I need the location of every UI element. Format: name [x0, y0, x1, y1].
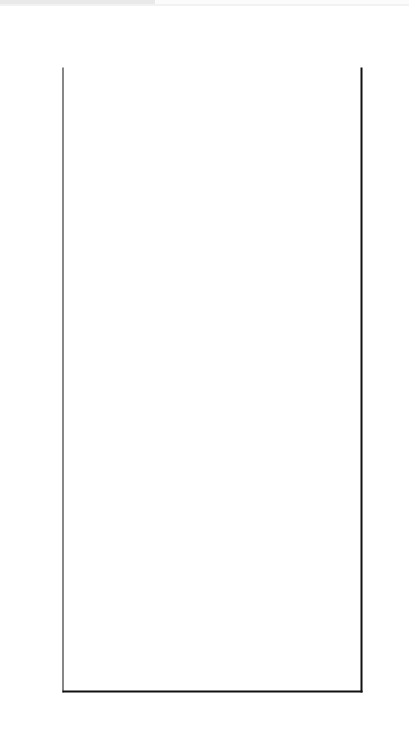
plot-area — [62, 67, 362, 692]
scanned-page — [0, 0, 409, 750]
